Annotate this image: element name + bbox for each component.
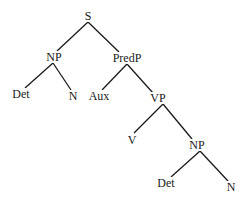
tree-node-aux: Aux	[88, 90, 111, 102]
tree-node-n1: N	[68, 90, 79, 102]
tree-node-v: V	[127, 134, 138, 146]
tree-edge-np1-to-det1	[25, 63, 53, 88]
tree-node-det2: Det	[156, 177, 175, 189]
tree-edge-predp-to-aux	[102, 64, 127, 90]
tree-node-n2: N	[226, 181, 237, 193]
tree-edge-np2-to-n2	[200, 151, 228, 181]
tree-node-s: S	[84, 10, 93, 22]
tree-node-vp: VP	[149, 92, 166, 104]
tree-edges	[25, 22, 228, 181]
tree-edge-vp-to-v	[134, 104, 163, 133]
tree-node-predp: PredP	[112, 52, 143, 64]
tree-edge-vp-to-np2	[163, 104, 192, 139]
tree-node-det1: Det	[11, 88, 30, 100]
tree-edge-np2-to-det2	[171, 151, 200, 177]
tree-edge-s-to-np1	[57, 22, 88, 51]
tree-edge-s-to-predp	[88, 22, 119, 52]
syntax-tree-diagram	[0, 0, 249, 200]
tree-node-np2: NP	[188, 139, 205, 151]
tree-node-np1: NP	[45, 51, 62, 63]
tree-edge-np1-to-n1	[53, 63, 71, 90]
tree-edge-predp-to-vp	[127, 64, 153, 93]
